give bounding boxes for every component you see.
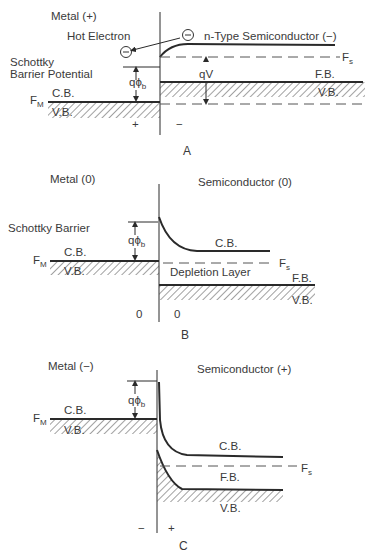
fs-label: Fs	[279, 257, 290, 272]
panel-a: Metal (+) Hot Electron n-Type Semiconduc…	[10, 10, 366, 158]
panel-b: Metal (0) Semiconductor (0) Schottky Bar…	[8, 173, 315, 342]
semiconductor-conduction-band	[160, 44, 335, 57]
semiconductor-cb-label: C.B.	[215, 237, 237, 249]
barrier-label-line2: Barrier Potential	[10, 68, 92, 80]
semiconductor-fb-label: F.B.	[315, 68, 335, 80]
metal-cb-label: C.B.	[64, 246, 86, 258]
semiconductor-label: n-Type Semiconductor (−)	[204, 30, 337, 42]
semiconductor-fb-label: F.B.	[220, 471, 240, 483]
semiconductor-label: Semiconductor (+)	[197, 363, 291, 375]
semiconductor-label: Semiconductor (0)	[198, 176, 292, 188]
metal-label: Metal (+)	[51, 10, 97, 22]
qphi-label: qϕb	[129, 76, 147, 91]
semiconductor-fb-label: F.B.	[292, 272, 312, 284]
fm-label: FM	[33, 254, 47, 269]
metal-charge-sign: −	[138, 522, 145, 534]
metal-vb-label: V.B.	[52, 106, 73, 118]
semiconductor-cb-label: C.B.	[219, 440, 241, 452]
barrier-label-line1: Schottky	[10, 56, 54, 68]
hot-electron-icon	[121, 47, 132, 58]
metal-vb-label: V.B.	[64, 424, 85, 436]
metal-label: Metal (−)	[48, 360, 94, 372]
hot-electron-label: Hot Electron	[67, 30, 130, 42]
electron-icon	[183, 30, 194, 41]
metal-vb-label: V.B.	[64, 265, 85, 277]
depletion-layer-label: Depletion Layer	[170, 266, 251, 278]
hot-electron-arrow	[133, 38, 180, 50]
fs-label: Fs	[301, 462, 312, 477]
metal-label: Metal (0)	[50, 173, 96, 185]
semiconductor-vb-label: V.B.	[318, 86, 339, 98]
metal-charge-sign: 0	[136, 308, 142, 320]
semiconductor-charge-sign: 0	[174, 308, 180, 320]
qphi-label: qϕb	[128, 234, 146, 249]
metal-cb-label: C.B.	[64, 404, 86, 416]
fm-label: FM	[33, 412, 47, 427]
qv-label: qV	[199, 68, 213, 80]
schottky-band-diagram-figure: Metal (+) Hot Electron n-Type Semiconduc…	[0, 0, 376, 555]
semiconductor-vb-label: V.B.	[220, 502, 241, 514]
metal-charge-sign: +	[132, 118, 139, 130]
metal-cb-label: C.B.	[52, 87, 74, 99]
semiconductor-charge-sign: +	[168, 522, 175, 534]
panel-caption: B	[181, 328, 189, 342]
qphi-label: qϕb	[128, 394, 146, 409]
panel-c: Metal (−) Semiconductor (+) qϕb FM C.B. …	[33, 360, 312, 553]
panel-caption: C	[179, 539, 188, 553]
semiconductor-vb-label: V.B.	[292, 294, 313, 306]
barrier-label: Schottky Barrier	[8, 222, 90, 234]
panel-caption: A	[183, 144, 191, 158]
fs-label: Fs	[342, 51, 353, 66]
semiconductor-charge-sign: −	[176, 118, 183, 130]
fm-label: FM	[30, 94, 44, 109]
